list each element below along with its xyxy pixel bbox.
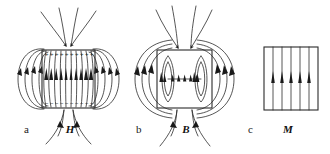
- panel-label-a: a: [24, 123, 29, 135]
- charge-minus: −: [75, 100, 79, 106]
- charge-plus: +: [70, 51, 74, 57]
- panel-a-top-surface-charges: + + + + + + + + + +: [45, 51, 94, 57]
- charge-minus: −: [55, 100, 59, 106]
- field-label-h: H: [65, 123, 75, 135]
- charge-plus: +: [90, 51, 94, 57]
- field-diagram-figure: + + + + + + + + + + − − − − − − − − − − …: [0, 0, 330, 154]
- panel-c-m-field: c M: [248, 47, 318, 135]
- charge-minus: −: [65, 100, 69, 106]
- charge-plus: +: [60, 51, 64, 57]
- field-label-b: B: [181, 123, 189, 135]
- charge-minus: −: [60, 100, 64, 106]
- charge-minus: −: [80, 100, 84, 106]
- charge-plus: +: [45, 51, 49, 57]
- charge-minus: −: [50, 100, 54, 106]
- panel-b-b-field: b B: [134, 6, 235, 146]
- panel-a-bottom-surface-charges: − − − − − − − − − −: [45, 100, 94, 106]
- field-label-m: M: [282, 123, 294, 135]
- charge-plus: +: [50, 51, 54, 57]
- charge-plus: +: [75, 51, 79, 57]
- charge-minus: −: [45, 100, 49, 106]
- panel-a-exterior-lines-top: [41, 8, 96, 46]
- panel-label-c: c: [248, 123, 253, 135]
- charge-minus: −: [90, 100, 94, 106]
- panel-b-exterior-lines-top: [156, 6, 212, 48]
- charge-plus: +: [85, 51, 89, 57]
- panel-label-b: b: [136, 123, 142, 135]
- charge-plus: +: [80, 51, 84, 57]
- charge-minus: −: [70, 100, 74, 106]
- panel-a-h-field: + + + + + + + + + + − − − − − − − − − − …: [17, 8, 120, 144]
- panel-b-interior-arrows: [168, 75, 201, 82]
- charge-plus: +: [55, 51, 59, 57]
- panel-a-interior-lines: [44, 51, 94, 107]
- charge-plus: +: [65, 51, 69, 57]
- charge-minus: −: [85, 100, 89, 106]
- panel-c-interior-lines: [271, 47, 311, 110]
